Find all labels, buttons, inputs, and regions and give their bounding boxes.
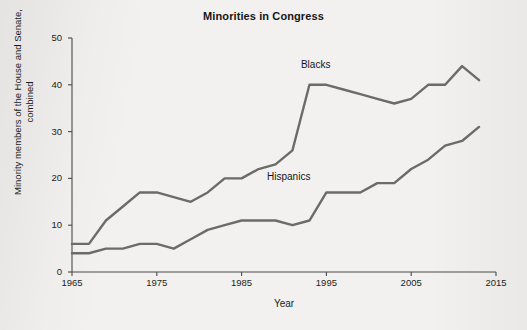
series-label-blacks: Blacks bbox=[301, 59, 330, 70]
chart-figure: Minorities in Congress Minority members … bbox=[0, 0, 527, 330]
y-tick-label-40: 40 bbox=[36, 79, 62, 90]
x-tick-label-1985: 1985 bbox=[222, 277, 262, 288]
y-tick-label-10: 10 bbox=[36, 219, 62, 230]
series-label-hispanics: Hispanics bbox=[267, 171, 310, 182]
y-tick-label-30: 30 bbox=[36, 126, 62, 137]
x-tick-label-1995: 1995 bbox=[306, 277, 346, 288]
chart-title: Minorities in Congress bbox=[0, 10, 527, 22]
x-tick-label-2005: 2005 bbox=[391, 277, 431, 288]
series-line-hispanics bbox=[72, 127, 479, 253]
x-tick-label-1975: 1975 bbox=[137, 277, 177, 288]
y-tick-label-20: 20 bbox=[36, 172, 62, 183]
y-tick-label-50: 50 bbox=[36, 32, 62, 43]
y-tick-label-0: 0 bbox=[36, 266, 62, 277]
y-axis-title: Minority members of the House and Senate… bbox=[12, 2, 36, 202]
x-tick-label-1965: 1965 bbox=[52, 277, 92, 288]
x-axis-title: Year bbox=[72, 298, 496, 309]
data-series bbox=[72, 66, 479, 253]
x-tick-label-2015: 2015 bbox=[476, 277, 516, 288]
series-line-blacks bbox=[72, 66, 479, 244]
